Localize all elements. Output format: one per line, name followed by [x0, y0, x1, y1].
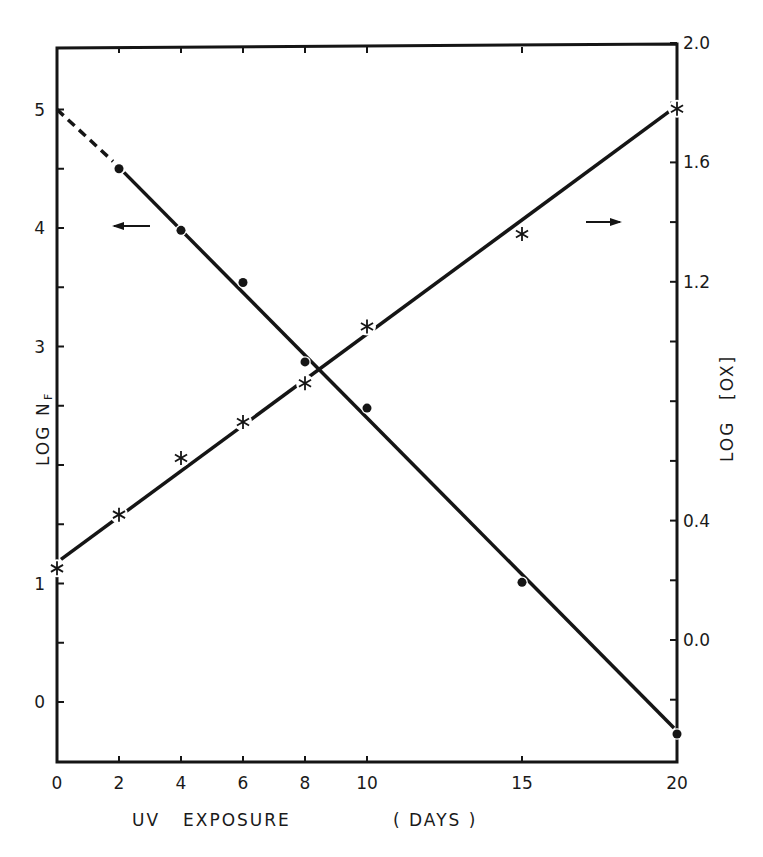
ox-data-point-asterisk — [110, 506, 128, 524]
nf-data-point — [115, 164, 124, 173]
series-axis-arrows — [112, 218, 622, 230]
right-y-axis-title-log: LOG — [717, 421, 737, 462]
nf-data-point — [363, 404, 372, 413]
right-y-tick-label: 0.0 — [683, 630, 710, 650]
right-y-tick-label: 0.4 — [683, 511, 710, 531]
left-y-tick-label: 5 — [34, 100, 45, 120]
nf-data-point — [239, 278, 248, 287]
left-y-axis-title-subscript: F — [42, 394, 55, 400]
x-axis-title-exposure: EXPOSURE — [183, 810, 291, 830]
left-y-tick-label: 3 — [34, 337, 45, 357]
x-tick-label: 20 — [666, 773, 688, 793]
x-tick-label: 15 — [511, 773, 533, 793]
left-y-tick-label: 4 — [34, 218, 45, 238]
ox-data-point-asterisk — [172, 449, 190, 467]
x-axis-title-uv: UV — [132, 810, 160, 830]
x-tick-label: 2 — [114, 773, 125, 793]
right-y-tick-label: 1.2 — [683, 272, 710, 292]
right-arrow-head-icon — [610, 218, 622, 226]
nf-data-point — [673, 729, 682, 738]
left-y-axis-title: LOG N F — [33, 394, 55, 466]
left-y-tick-label: 1 — [34, 574, 45, 594]
right-y-tick-label: 1.6 — [683, 152, 710, 172]
ox-data-point-asterisk — [234, 413, 252, 431]
right-y-tick-label: 2.0 — [683, 33, 710, 53]
nf-data-point — [301, 357, 310, 366]
nf-fit-line-dashed — [57, 110, 113, 162]
x-tick-label: 8 — [300, 773, 311, 793]
x-tick-label: 10 — [356, 773, 378, 793]
ox-data-point-asterisk — [513, 225, 531, 243]
ox-data-point-asterisk — [358, 318, 376, 336]
left-arrow-head-icon — [112, 222, 124, 230]
nf-data-point — [518, 578, 527, 587]
right-y-axis-title: LOG [OX] — [717, 355, 737, 462]
left-y-axis-title-log: LOG — [33, 425, 53, 466]
ox-data-point-asterisk — [296, 374, 314, 392]
dual-axis-line-chart: 02468101520 01345 0.00.41.21.62.0 UV EXP… — [0, 0, 763, 857]
right-y-axis-title-ox: [OX] — [717, 355, 737, 400]
fit-lines — [57, 110, 674, 729]
x-tick-label: 6 — [238, 773, 249, 793]
x-tick-label: 0 — [52, 773, 63, 793]
ox-data-point-asterisk — [668, 100, 686, 118]
nf-data-point — [177, 226, 186, 235]
ox-data-point-asterisk — [48, 559, 66, 577]
ox-fit-line — [61, 112, 669, 560]
left-y-axis-title-symbol: N — [33, 401, 53, 416]
x-tick-label: 4 — [176, 773, 187, 793]
x-axis-title-days: ( DAYS ) — [393, 810, 477, 830]
left-y-tick-label: 0 — [34, 692, 45, 712]
